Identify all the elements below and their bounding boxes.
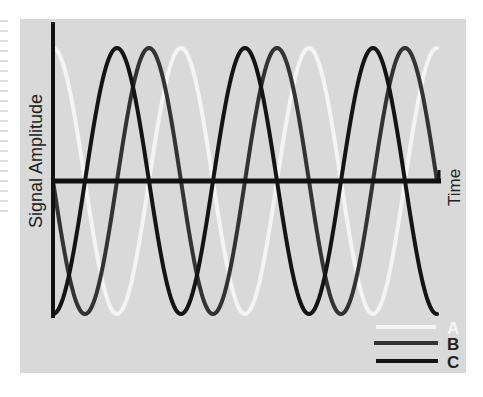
legend-label-b: B bbox=[447, 335, 459, 354]
chart: Signal Amplitude Time A B C bbox=[0, 0, 483, 397]
x-axis-label: Time bbox=[445, 169, 464, 206]
legend-label-c: C bbox=[447, 353, 459, 372]
y-axis-label: Signal Amplitude bbox=[26, 94, 46, 228]
